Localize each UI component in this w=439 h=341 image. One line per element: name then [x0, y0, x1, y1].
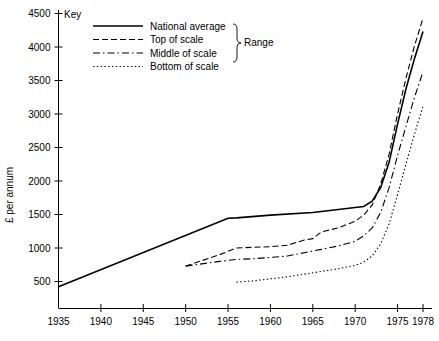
range-bracket: [233, 24, 241, 62]
x-tick-label: 1945: [132, 316, 155, 327]
x-tick-label: 1955: [217, 316, 240, 327]
y-tick-label: 2500: [28, 142, 51, 153]
x-tick-label: 1975: [386, 316, 409, 327]
y-tick-label: 500: [34, 276, 51, 287]
line-chart: 50010001500200025003000350040004500 1935…: [0, 0, 439, 341]
series-line-top-of-scale: [186, 18, 423, 266]
x-tick-label: 1970: [344, 316, 367, 327]
y-tick-label: 4000: [28, 42, 51, 53]
x-tick-label: 1965: [302, 316, 325, 327]
x-tick-label: 1950: [175, 316, 198, 327]
series-line-national-average: [59, 32, 424, 287]
legend: Key National averageTop of scaleMiddle o…: [64, 9, 274, 72]
x-tick-label: 1978: [412, 316, 435, 327]
x-tick-label: 1935: [47, 316, 70, 327]
y-tick-label: 3000: [28, 109, 51, 120]
series-group: [59, 18, 424, 287]
legend-group-label: Range: [244, 37, 274, 48]
legend-label-top-of-scale: Top of scale: [150, 34, 204, 45]
legend-title: Key: [64, 9, 81, 20]
y-axis-ticks: 50010001500200025003000350040004500: [28, 8, 62, 287]
x-tick-label: 1940: [90, 316, 113, 327]
legend-label-middle-of-scale: Middle of scale: [150, 48, 217, 59]
legend-label-national-average: National average: [150, 21, 226, 32]
x-tick-label: 1960: [259, 316, 282, 327]
y-tick-label: 3500: [28, 75, 51, 86]
legend-label-bottom-of-scale: Bottom of scale: [150, 61, 219, 72]
legend-entries: National averageTop of scaleMiddle of sc…: [93, 21, 226, 73]
y-tick-label: 1000: [28, 243, 51, 254]
chart-container: 50010001500200025003000350040004500 1935…: [0, 0, 439, 341]
y-tick-label: 4500: [28, 8, 51, 19]
y-axis-title: £ per annum: [4, 167, 15, 223]
y-tick-label: 2000: [28, 176, 51, 187]
x-axis-ticks: 1935194019451950195519601965197019751978: [47, 304, 434, 327]
y-tick-label: 1500: [28, 209, 51, 220]
